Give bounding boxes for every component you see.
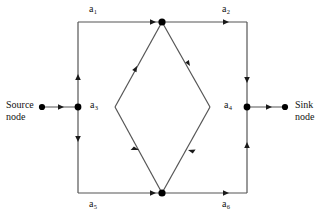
- edge-label-a1: a1: [89, 4, 97, 14]
- arrowhead-left-edge-lower: [75, 136, 81, 142]
- source-node-label-line1: Source: [6, 99, 34, 111]
- sink-node-label-line1: Sink: [295, 99, 314, 111]
- edge-label-a4-base: a: [224, 99, 228, 110]
- edge-label-a6-base: a: [222, 198, 226, 209]
- graph-svg: .ln { stroke: #555555; stroke-width: 1.2…: [0, 0, 321, 220]
- arrowhead-a5: [150, 190, 156, 196]
- node-left[interactable]: [75, 104, 82, 111]
- arrowhead-right-edge-lower: [244, 142, 250, 148]
- sink-node-label: Sink node: [295, 99, 314, 122]
- edge-label-a3: a3: [90, 100, 98, 110]
- edge-label-a6: a6: [222, 199, 230, 209]
- edge-label-a6-sub: 6: [227, 203, 230, 210]
- edge-diamond-lower-right-line: [162, 107, 210, 193]
- node-top[interactable]: [158, 18, 165, 25]
- node-source-dot[interactable]: [39, 104, 45, 110]
- source-node-label: Source node: [6, 99, 34, 122]
- node-bottom[interactable]: [158, 189, 165, 196]
- edge-label-a4-sub: 4: [229, 104, 232, 111]
- outer-rectangle-edges: [78, 22, 247, 193]
- node-right[interactable]: [244, 104, 251, 111]
- edge-a4-line: [162, 22, 210, 107]
- source-node-label-line2: node: [6, 111, 34, 123]
- edge-label-a2-sub: 2: [227, 8, 230, 15]
- node-sink-dot[interactable]: [282, 104, 288, 110]
- edge-label-a3-base: a: [90, 99, 94, 110]
- arrowhead-diamond-lower-right: [188, 150, 196, 154]
- edge-label-a3-sub: 3: [95, 104, 98, 111]
- arrowhead-right-edge-upper: [244, 77, 250, 83]
- edge-label-a2-base: a: [222, 3, 226, 14]
- arrowhead-a6: [223, 190, 229, 196]
- edge-label-a1-base: a: [89, 3, 93, 14]
- edge-label-a5-sub: 5: [94, 203, 97, 210]
- arrowhead-sink-connector: [266, 104, 272, 110]
- sink-node-label-line2: node: [295, 111, 314, 123]
- edge-label-a5: a5: [89, 199, 97, 209]
- edge-diamond-lower-left-line: [115, 107, 162, 193]
- diagram-canvas: .ln { stroke: #555555; stroke-width: 1.2…: [0, 0, 321, 220]
- arrowhead-left-edge-upper: [75, 74, 81, 80]
- edge-label-a4: a4: [224, 100, 232, 110]
- arrowhead-a2: [223, 19, 229, 25]
- edge-label-a5-base: a: [89, 198, 93, 209]
- inner-diamond-edges: [115, 22, 210, 193]
- arrowhead-a1: [150, 19, 156, 25]
- edge-label-a2: a2: [222, 4, 230, 14]
- arrowhead-source-connector: [58, 104, 64, 110]
- edge-label-a1-sub: 1: [94, 8, 97, 15]
- edge-a3-line: [115, 22, 162, 107]
